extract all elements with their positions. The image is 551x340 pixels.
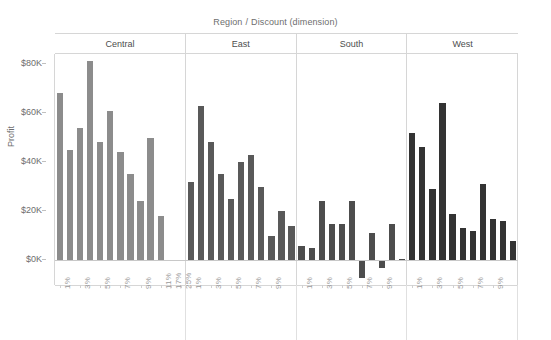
panel-header-south[interactable]: South [297,34,408,53]
x-axis-tickmark [161,285,162,288]
bar[interactable] [369,233,375,260]
x-axis-tick-label: 9% [496,277,505,289]
bar-group [297,54,407,285]
bar[interactable] [460,228,466,260]
chart-panel-central [55,54,186,285]
bar[interactable] [198,106,204,261]
x-axis-tickmark [453,285,454,288]
x-axis-tick-label: 5% [456,277,465,289]
x-axis-tick-label: 3% [325,277,334,289]
x-axis-panel-east: 1%3%5%7%9% [186,285,297,340]
x-axis-tick-label: 9% [144,277,153,289]
zero-baseline [55,260,518,261]
bar[interactable] [147,138,153,261]
bar[interactable] [127,174,133,260]
bar[interactable] [339,224,345,261]
bar[interactable] [298,246,304,261]
x-axis-tickmark [322,285,323,288]
y-axis-tick: $60K [0,107,50,117]
bar[interactable] [77,128,83,261]
x-axis-tick-label: 1% [305,277,314,289]
x-axis-tickmark [342,285,343,288]
bar[interactable] [107,111,113,261]
bar[interactable] [57,93,63,260]
bar[interactable] [359,260,365,277]
x-axis-tick-label: 7% [123,277,132,289]
panel-header-east[interactable]: East [186,34,297,53]
bar[interactable] [319,201,325,260]
bar[interactable] [97,142,103,260]
bar[interactable] [379,260,385,267]
bar[interactable] [188,182,194,261]
x-axis-tickmark [473,285,474,288]
visualization-canvas: Region/Discount (dimension) CentralEastS… [0,0,551,340]
x-axis-tick-label: 7% [476,277,485,289]
x-axis-tick-label: 5% [345,277,354,289]
x-axis-tick-label: 3% [214,277,223,289]
bar[interactable] [238,162,244,260]
bar[interactable] [87,61,93,260]
bar[interactable] [500,221,506,260]
bar[interactable] [439,103,445,260]
panel-header-west[interactable]: West [407,34,518,53]
bar[interactable] [449,214,455,261]
x-axis-tickmark [382,285,383,288]
plot-area [55,54,518,285]
x-axis-tick-label: 9% [385,277,394,289]
x-axis-tick-label: 7% [365,277,374,289]
x-axis-tick-label: 3% [83,277,92,289]
y-axis-tickmark [42,63,46,64]
x-axis-tickmark [80,285,81,288]
x-axis-panel-central: 1%3%5%7%9%11%17%25% [55,285,186,340]
bar[interactable] [248,155,254,261]
bar-group [55,54,185,285]
bar[interactable] [490,219,496,261]
x-axis-tickmark [191,285,192,288]
y-axis-tickmark [42,112,46,113]
x-axis-tickmark [211,285,212,288]
bar[interactable] [419,147,425,260]
bar[interactable] [158,216,164,260]
bar[interactable] [429,189,435,260]
x-axis-tickmark [412,285,413,288]
bar[interactable] [510,241,516,261]
bar[interactable] [480,184,486,260]
bar[interactable] [67,150,73,261]
row-field-label: Discount (dimension) [251,17,338,27]
bar[interactable] [389,224,395,261]
x-axis-tickmark [231,285,232,288]
chart-field-title: Region/Discount (dimension) [0,17,551,27]
bar[interactable] [117,152,123,260]
bar-group [186,54,296,285]
y-axis-tick: $0K [0,254,50,264]
bar[interactable] [470,231,476,260]
x-axis-tickmark [432,285,433,288]
bar[interactable] [278,211,284,260]
chart-panel-east [186,54,297,285]
column-field-label: Region [213,17,242,27]
y-axis-tickmark [42,210,46,211]
x-axis-tick-label: 5% [234,277,243,289]
x-axis-tickmark [60,285,61,288]
bar[interactable] [228,199,234,260]
x-axis-tickmark [120,285,121,288]
bar[interactable] [268,236,274,261]
bar-group [407,54,517,285]
x-axis-tickmark [271,285,272,288]
bar[interactable] [137,201,143,260]
bar[interactable] [309,248,315,260]
bar[interactable] [409,133,415,261]
y-axis-title: Profit [6,126,16,147]
bar[interactable] [258,187,264,261]
y-axis-tick: $20K [0,205,50,215]
y-axis-tick-labels: $0K$20K$40K$60K$80K [0,54,50,285]
panel-header-band: CentralEastSouthWest [55,33,518,54]
bar[interactable] [288,226,294,260]
x-axis-tick-label: 1% [194,277,203,289]
bar[interactable] [218,174,224,260]
bar[interactable] [329,224,335,261]
panel-header-central[interactable]: Central [55,34,186,53]
bar[interactable] [208,142,214,260]
y-axis-tick: $80K [0,58,50,68]
bar[interactable] [349,201,355,260]
